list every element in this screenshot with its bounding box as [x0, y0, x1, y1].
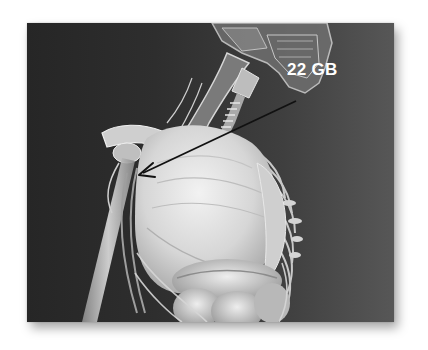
callout-label: 22 GB [287, 60, 338, 80]
anatomy-illustration [27, 23, 394, 322]
anatomy-image [27, 23, 394, 322]
humerus [82, 158, 135, 322]
page: 22 GB [0, 0, 428, 350]
